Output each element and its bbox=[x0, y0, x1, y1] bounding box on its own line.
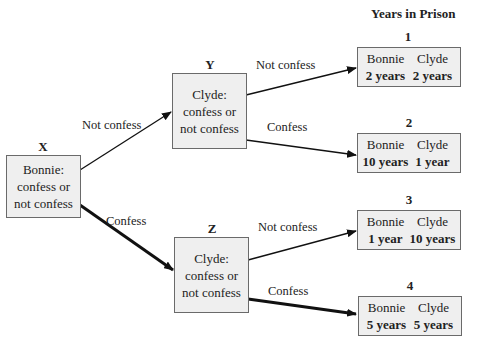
node-x-line2: confess or bbox=[17, 178, 70, 195]
node-x-line1: Bonnie: bbox=[23, 161, 64, 178]
edge-label-y-2: Confess bbox=[267, 120, 307, 135]
node-z-line1: Clyde: bbox=[194, 250, 229, 267]
outcome-1-player1: Bonnie bbox=[362, 50, 409, 67]
outcome-3-number: 3 bbox=[399, 192, 419, 208]
outcome-3-value2: 10 years bbox=[409, 230, 456, 247]
outcomes-header: Years in Prison bbox=[371, 6, 456, 22]
outcome-1-box: Bonnie Clyde 2 years 2 years bbox=[357, 47, 461, 87]
node-z-clyde-decision: Clyde: confess or not confess bbox=[174, 237, 249, 313]
outcome-3-box: Bonnie Clyde 1 year 10 years bbox=[357, 210, 461, 250]
node-x-line3: not confess bbox=[14, 195, 73, 212]
node-y-clyde-decision: Clyde: confess or not confess bbox=[172, 73, 247, 149]
node-x-label: X bbox=[28, 139, 58, 155]
outcome-4-value2: 5 years bbox=[410, 316, 457, 333]
node-z-label: Z bbox=[197, 221, 227, 237]
outcome-1-value2: 2 years bbox=[409, 67, 456, 84]
edge-z-4 bbox=[248, 299, 356, 314]
outcome-4-value1: 5 years bbox=[363, 316, 410, 333]
edge-label-z-4: Confess bbox=[268, 284, 308, 299]
outcome-1-value1: 2 years bbox=[362, 67, 409, 84]
node-y-line2: confess or bbox=[183, 103, 236, 120]
node-x-bonnie-decision: Bonnie: confess or not confess bbox=[6, 155, 81, 218]
outcome-1-player2: Clyde bbox=[409, 50, 456, 67]
outcome-2-value2: 1 year bbox=[409, 153, 456, 170]
node-y-label: Y bbox=[195, 57, 225, 73]
outcome-3-player1: Bonnie bbox=[362, 213, 409, 230]
outcome-2-value1: 10 years bbox=[362, 153, 409, 170]
outcome-2-player1: Bonnie bbox=[362, 136, 409, 153]
edge-y-2 bbox=[246, 140, 356, 155]
node-z-line3: not confess bbox=[182, 284, 241, 301]
edge-z-3 bbox=[248, 231, 356, 260]
node-z-line2: confess or bbox=[185, 267, 238, 284]
outcome-3-value1: 1 year bbox=[362, 230, 409, 247]
game-tree-diagram: Years in Prison X Bonnie: confess or not… bbox=[0, 0, 486, 351]
outcome-2-box: Bonnie Clyde 10 years 1 year bbox=[357, 133, 461, 173]
outcome-1-number: 1 bbox=[398, 29, 418, 45]
outcome-3-player2: Clyde bbox=[409, 213, 456, 230]
outcome-4-player1: Bonnie bbox=[363, 299, 410, 316]
outcome-2-number: 2 bbox=[399, 115, 419, 131]
edge-label-y-1: Not confess bbox=[256, 58, 315, 73]
edge-label-x-y: Not confess bbox=[82, 118, 141, 133]
outcome-2-player2: Clyde bbox=[409, 136, 456, 153]
node-y-line1: Clyde: bbox=[192, 86, 227, 103]
outcome-4-box: Bonnie Clyde 5 years 5 years bbox=[358, 296, 462, 336]
node-y-line3: not confess bbox=[180, 120, 239, 137]
outcome-4-player2: Clyde bbox=[410, 299, 457, 316]
outcome-4-number: 4 bbox=[400, 278, 420, 294]
edge-label-z-3: Not confess bbox=[258, 220, 317, 235]
edge-label-x-z: Confess bbox=[106, 214, 146, 229]
